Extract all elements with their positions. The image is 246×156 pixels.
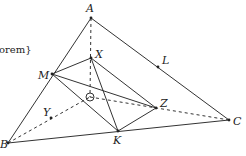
geometry-diagram: AXMZKBCLY orem} (0, 0, 246, 156)
label-M: M (37, 69, 50, 82)
segment-MX (52, 58, 91, 74)
point-X (90, 57, 93, 60)
point-C (228, 119, 231, 122)
point-Z (155, 107, 158, 110)
point-L (157, 66, 160, 69)
label-C: C (233, 115, 242, 128)
label-L: L (161, 54, 169, 67)
label-Z: Z (159, 97, 168, 110)
point-A (90, 17, 93, 20)
segment-AB (8, 18, 91, 143)
point-M (51, 73, 54, 76)
segment-MK (52, 74, 118, 131)
label-A: A (85, 2, 94, 15)
caption-fragment: orem} (0, 44, 32, 55)
label-B: B (0, 138, 8, 151)
label-K: K (112, 134, 122, 147)
point-K (117, 130, 120, 133)
label-X: X (94, 48, 104, 61)
segment-ZM (52, 74, 156, 108)
segment-KZ (118, 108, 156, 131)
